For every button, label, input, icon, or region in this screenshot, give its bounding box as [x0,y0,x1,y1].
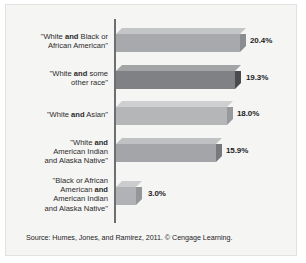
source-note: Source: Humes, Jones, and Ramirez, 2011.… [26,233,232,242]
bar-front-face [116,107,227,125]
bar-side-face [235,71,241,89]
category-label-1-text: "White and Black orAfrican American" [41,32,108,50]
bar-white-and-some-other-race[interactable] [116,65,241,89]
category-label-2: "White and someother race" [0,69,108,87]
bar-white-and-asian[interactable] [116,101,233,125]
value-label-2: 19.3% [246,73,268,82]
bar-front-face [116,187,136,205]
value-label-1: 20.4% [250,36,272,45]
value-label-4: 15.9% [226,146,248,155]
bar-black-or-african-american-and-american-indian-and-alaska-native[interactable] [116,181,142,205]
bar-front-face [116,71,235,89]
value-label-3: 18.0% [237,109,259,118]
bar-front-face [116,144,216,162]
value-label-5: 3.0% [148,189,166,198]
plot-area: 20.4% "White and Black orAfrican America… [6,5,298,257]
category-label-1: "White and Black orAfrican American" [0,32,108,50]
bar-side-face [136,187,142,205]
bar-side-face [240,34,246,52]
category-label-3-text: "White and Asian" [47,110,108,119]
category-label-4-text: "White andAmerican Indianand Alaska Nati… [45,138,108,165]
category-label-4: "White andAmerican Indianand Alaska Nati… [0,138,108,166]
bar-white-and-american-indian-and-alaska-native[interactable] [116,138,222,162]
bar-side-face [227,107,233,125]
category-label-5: "Black or AfricanAmerican andAmerican In… [0,176,108,213]
category-label-2-text: "White and someother race" [50,69,108,87]
chart-card: 20.4% "White and Black orAfrican America… [5,4,297,256]
bar-white-and-black-or-african-american[interactable] [116,28,246,52]
chart-figure: 20.4% "White and Black orAfrican America… [0,0,306,263]
bar-front-face [116,34,240,52]
bar-side-face [216,144,222,162]
category-label-5-text: "Black or AfricanAmerican andAmerican In… [45,176,108,213]
category-label-3: "White and Asian" [0,110,108,119]
